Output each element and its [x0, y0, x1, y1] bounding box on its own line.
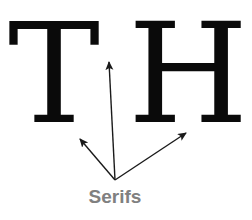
caption-label: Serifs: [0, 186, 230, 208]
arrow-up-icon: [109, 62, 115, 180]
serifs-diagram: T H Serifs: [0, 0, 252, 220]
letter-h: H: [128, 0, 248, 155]
letter-t: T: [8, 0, 100, 155]
